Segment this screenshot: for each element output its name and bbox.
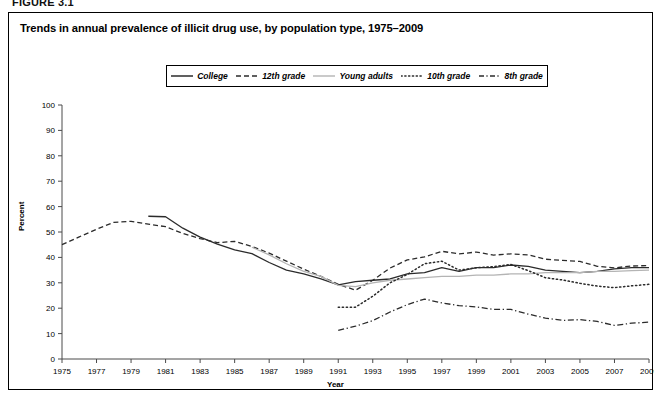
x-tick-label: 1999 [467, 367, 485, 376]
x-tick-label: 1993 [364, 367, 382, 376]
x-tick-label: 1975 [53, 367, 71, 376]
series-line-college [148, 216, 649, 285]
x-tick-label: 1985 [226, 367, 244, 376]
x-tick-label: 1987 [260, 367, 278, 376]
y-tick-label: 60 [46, 203, 55, 212]
y-tick-label: 80 [46, 152, 55, 161]
y-tick-label: 20 [46, 304, 55, 313]
y-tick-label: 70 [46, 177, 55, 186]
x-tick-label: 1997 [433, 367, 451, 376]
plot-area: 0102030405060708090100197519771979198119… [9, 13, 654, 391]
figure-frame: Trends in annual prevalence of illicit d… [8, 12, 653, 390]
x-tick-label: 2007 [606, 367, 624, 376]
x-tick-label: 2003 [537, 367, 555, 376]
x-tick-label: 1977 [88, 367, 106, 376]
x-tick-label: 2009 [640, 367, 654, 376]
y-tick-label: 90 [46, 126, 55, 135]
x-tick-label: 2001 [502, 367, 520, 376]
y-tick-label: 0 [51, 355, 56, 364]
series-line-young-adults [252, 247, 649, 286]
y-tick-label: 10 [46, 330, 55, 339]
y-tick-label: 50 [46, 228, 55, 237]
x-tick-label: 1989 [295, 367, 313, 376]
x-tick-label: 1981 [157, 367, 175, 376]
line-chart-svg: 0102030405060708090100197519771979198119… [9, 13, 654, 391]
figure-number-label: FIGURE 3.1 [12, 0, 74, 8]
x-tick-label: 1991 [329, 367, 347, 376]
x-tick-label: 2005 [571, 367, 589, 376]
series-line-8th-grade [338, 299, 649, 330]
x-tick-label: 1995 [398, 367, 416, 376]
y-tick-label: 40 [46, 253, 55, 262]
y-tick-label: 100 [42, 101, 56, 110]
y-tick-label: 30 [46, 279, 55, 288]
x-tick-label: 1979 [122, 367, 140, 376]
x-tick-label: 1983 [191, 367, 209, 376]
